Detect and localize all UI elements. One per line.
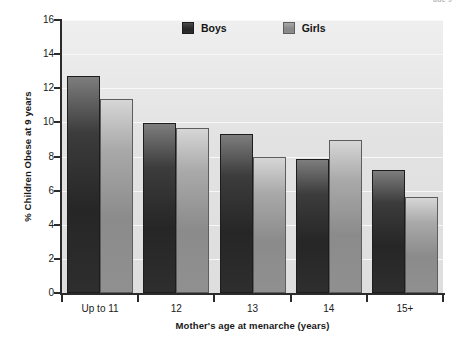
x-axis-tick	[442, 294, 444, 302]
bar-girls-2	[253, 157, 286, 294]
x-axis-tick	[137, 294, 139, 302]
legend-item-boys: Boys	[182, 22, 227, 34]
x-axis-tick	[61, 294, 63, 302]
x-axis-tick	[213, 294, 215, 302]
bar-boys-3	[296, 159, 329, 293]
y-axis-tick	[54, 292, 61, 294]
x-axis-line	[60, 293, 445, 295]
x-axis-category-label: Up to 11	[62, 303, 138, 315]
x-axis-title: Mother's age at menarche (years)	[62, 320, 443, 331]
bar-boys-1	[143, 123, 176, 293]
x-axis-tick	[290, 294, 292, 302]
y-axis-title: % Children Obese at 9 years	[18, 20, 38, 293]
x-axis-category-label: 12	[138, 303, 214, 315]
bar-girls-0	[100, 99, 133, 293]
bar-girls-1	[176, 128, 209, 293]
x-axis-category-label: 13	[214, 303, 290, 315]
gridline	[62, 54, 443, 55]
chart-legend: Boys Girls	[182, 22, 326, 34]
legend-swatch-boys-icon	[182, 22, 194, 34]
y-axis-tick	[54, 121, 61, 123]
y-axis-tick	[54, 190, 61, 192]
y-axis-tick	[54, 258, 61, 260]
bar-boys-2	[220, 134, 253, 293]
y-axis-tick	[54, 156, 61, 158]
y-axis-tick	[54, 19, 61, 21]
legend-label-girls: Girls	[302, 22, 326, 34]
bar-boys-0	[67, 76, 100, 293]
bar-girls-3	[329, 140, 362, 293]
y-axis-tick	[54, 87, 61, 89]
x-axis-category-label: 14	[291, 303, 367, 315]
bar-boys-4	[372, 170, 405, 293]
legend-label-boys: Boys	[201, 22, 227, 34]
y-axis-tick	[54, 224, 61, 226]
x-axis-category-label: 15+	[367, 303, 443, 315]
plot-area	[62, 20, 443, 293]
x-axis-tick	[366, 294, 368, 302]
y-axis-tick	[54, 53, 61, 55]
bar-girls-4	[405, 197, 438, 293]
gridline	[62, 20, 443, 21]
legend-item-girls: Girls	[283, 22, 326, 34]
clipped-header-text: age 9	[433, 0, 452, 2]
gridline	[62, 88, 443, 89]
legend-swatch-girls-icon	[283, 22, 295, 34]
